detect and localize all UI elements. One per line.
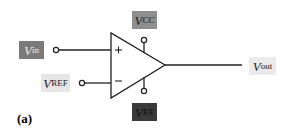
vcc-label: VCC [132,11,157,29]
vin-label: Vin [19,41,44,59]
vin-main: V [24,44,32,57]
op-amp-triangle [111,33,165,98]
vee-main: V [135,106,143,119]
vcc-terminal [141,37,146,42]
vref-sub: REF [51,79,68,88]
vout-sub: out [261,62,273,71]
vref-label: VREF [41,74,70,92]
vref-terminal [79,80,84,85]
vee-terminal [141,88,146,93]
vcc-sub: CC [142,16,154,25]
vcc-main: V [135,14,143,27]
vout-label: Vout [249,57,276,75]
vin-sub: in [32,46,39,55]
vee-label: VEE [132,103,157,121]
vout-main: V [253,60,261,73]
vref-main: V [43,77,51,90]
vin-terminal [53,47,58,52]
figure-caption: (a) [17,111,32,127]
vee-sub: EE [143,108,154,117]
